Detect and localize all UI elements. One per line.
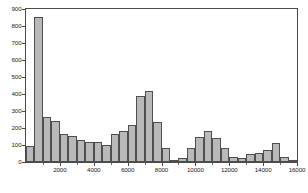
x-axis-minor-tick-mark [246,163,247,165]
histogram-bar [102,145,110,162]
histogram-bar [255,153,263,162]
histogram-bar [263,150,271,162]
histogram-bar [68,136,76,162]
histogram-bar [85,142,93,162]
x-axis-tick-label: 8000 [148,167,176,173]
histogram-bar [289,160,297,162]
x-axis-tick-label: 16000 [283,167,308,173]
histogram-bar [77,140,85,162]
histogram-bar [26,146,34,162]
histogram-bar [195,137,203,162]
histogram-bar [136,96,144,162]
histogram-bar [221,148,229,162]
histogram-bar [246,154,254,162]
x-axis-tick-mark [60,163,61,166]
x-axis-minor-tick-mark [77,163,78,165]
x-axis-tick-label: 2000 [46,167,74,173]
histogram-chart: 0100200300400500600700800900 20004000600… [0,0,308,193]
histogram-bar [34,17,42,162]
x-axis-tick-label: 10000 [181,167,209,173]
histogram-bar [43,117,51,162]
histogram-bar [60,134,68,162]
histogram-bar [178,158,186,162]
histogram-bar [272,143,280,162]
bars-layer [26,9,297,162]
plot-area [25,8,298,163]
histogram-bar [204,131,212,162]
histogram-bar [128,125,136,162]
x-axis-tick-mark [195,163,196,166]
histogram-bar [229,157,237,162]
x-axis-tick-mark [128,163,129,166]
x-axis-minor-tick-mark [145,163,146,165]
x-axis-minor-tick-mark [280,163,281,165]
histogram-bar [280,157,288,162]
histogram-bar [153,122,161,162]
histogram-bar [162,148,170,162]
x-axis-tick-mark [297,163,298,166]
histogram-bar [94,142,102,162]
histogram-bar [145,91,153,162]
x-axis-tick-mark [162,163,163,166]
x-axis-minor-tick-mark [212,163,213,165]
histogram-bar [212,138,220,162]
x-axis-tick-label: 6000 [114,167,142,173]
x-axis-minor-tick-mark [178,163,179,165]
x-axis-tick-label: 4000 [80,167,108,173]
histogram-bar [119,131,127,162]
histogram-bar [187,148,195,162]
x-axis-tick-label: 14000 [249,167,277,173]
x-axis-minor-tick-mark [111,163,112,165]
histogram-bar [170,160,178,162]
x-axis-tick-mark [94,163,95,166]
x-axis-tick-label: 12000 [215,167,243,173]
x-axis-tick-mark [229,163,230,166]
histogram-bar [238,158,246,162]
x-axis-tick-mark [263,163,264,166]
histogram-bar [111,134,119,162]
histogram-bar [51,121,59,162]
x-axis-minor-tick-mark [43,163,44,165]
